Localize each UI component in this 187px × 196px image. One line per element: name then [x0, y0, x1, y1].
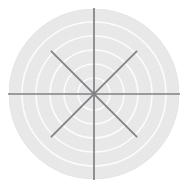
polar-chart-figure	[0, 0, 187, 196]
polar-grid-svg	[0, 0, 187, 196]
polar-axes	[8, 8, 180, 180]
